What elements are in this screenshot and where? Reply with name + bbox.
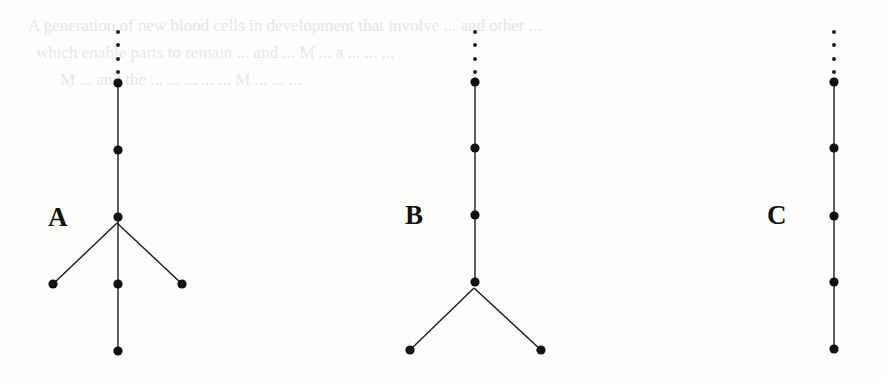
ellipsis-dot [473,70,477,74]
branch-edge [474,288,541,350]
tree-c: C [767,30,839,354]
trunk-node [829,211,838,220]
branch-edge [53,223,117,284]
leaf-node [405,345,414,354]
leaf-node [536,345,545,354]
tree-b: B [405,30,546,355]
branch-edge [117,223,182,284]
ellipsis-dot [116,30,120,34]
ellipsis-dot [832,30,836,34]
ellipsis-dot [473,30,477,34]
trunk-node [113,145,122,154]
trunk-node [829,344,838,353]
figure-canvas: A generation of new blood cells in devel… [0,0,886,382]
tree-a: A [48,30,187,356]
trunk-node [470,77,479,86]
trunk-node [113,346,122,355]
branch-edge [410,288,474,350]
trunk-node [113,212,122,221]
trunk-node [470,143,479,152]
ellipsis-dot [116,70,120,74]
trunk-node [829,77,838,86]
ellipsis-dot [473,57,477,61]
trunk-node [829,277,838,286]
trunk-node [113,279,122,288]
leaf-node [177,279,186,288]
ellipsis-dot [116,57,120,61]
tree-label: B [405,200,423,230]
tree-label: A [48,202,68,232]
tree-diagram: A B C [0,0,886,382]
trunk-node [470,210,479,219]
leaf-node [48,279,57,288]
ellipsis-dot [832,70,836,74]
ellipsis-dot [832,43,836,47]
ellipsis-dot [473,43,477,47]
ellipsis-dot [116,43,120,47]
tree-label: C [767,200,787,230]
trunk-node [113,78,122,87]
ellipsis-dot [832,57,836,61]
trunk-node [829,143,838,152]
trunk-node [470,277,479,286]
